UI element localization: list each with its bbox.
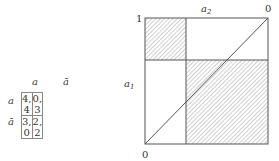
hatched-region-top-left [145,18,186,60]
top-axis-label: a2 [201,3,212,16]
left-axis-label: a1 [124,78,134,91]
hatched-region-bottom-right [186,60,268,144]
region-diagram: 1 0 0 a2 a1 [0,0,279,161]
corner-label-top-right: 0 [265,3,271,14]
corner-label-top-left: 1 [136,13,142,24]
corner-label-bottom-left: 0 [142,149,148,160]
